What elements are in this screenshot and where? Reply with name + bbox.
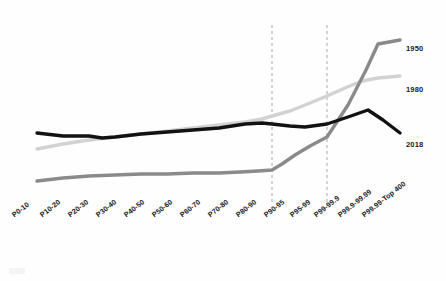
series-end-label-2018: 2018 — [406, 140, 424, 149]
chart-plot-area — [0, 0, 446, 281]
series-end-label-1980: 1980 — [406, 85, 424, 94]
watermark-artifact — [9, 268, 25, 274]
series-end-label-1950: 1950 — [406, 44, 424, 53]
line-chart: 1950 1980 2018 P0-10 P10-20 P20-30 P30-4… — [0, 0, 446, 281]
series-line-1950 — [37, 40, 400, 181]
